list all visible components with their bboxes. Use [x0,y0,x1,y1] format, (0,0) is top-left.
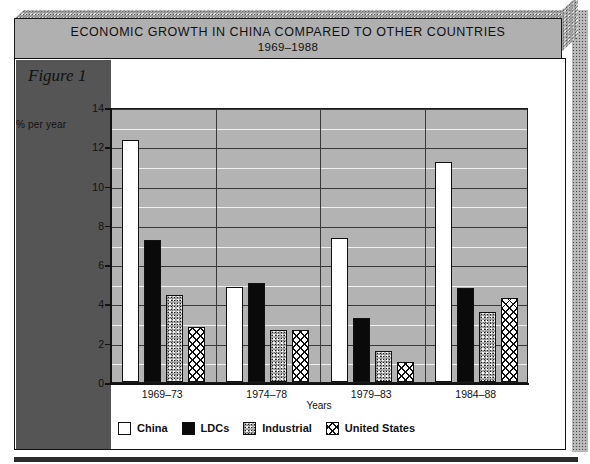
y-axis-tick-label: 0 [98,377,104,389]
y-axis-tick-label: 8 [98,220,104,232]
x-axis-title: Years [110,400,528,411]
gridline-major [111,188,527,189]
legend-item-ldcs: LDCs [182,422,230,435]
legend-swatch-icon [326,422,339,435]
bar-china [435,162,452,382]
legend-label: China [137,422,168,434]
bar-ldcs [248,283,265,382]
bar-ldcs [144,240,161,382]
bar-ldcs [457,288,474,382]
frame-bottom-shadow [14,457,578,462]
legend-label: United States [345,422,415,434]
y-axis-tick [105,187,110,189]
legend-swatch-icon [118,422,131,435]
y-axis-tick [105,108,110,110]
figure-container: ECONOMIC GROWTH IN CHINA COMPARED TO OTH… [0,0,590,464]
y-axis-tick-label: 12 [92,141,104,153]
y-axis-tick-label: 10 [92,181,104,193]
y-axis-tick-label: 4 [98,298,104,310]
gridline-minor [111,129,527,130]
x-axis-tick-label: 1979–83 [351,388,392,400]
title-banner: ECONOMIC GROWTH IN CHINA COMPARED TO OTH… [14,10,578,60]
legend-item-china: China [118,422,168,435]
bar-industrial [375,351,392,382]
bar-united-states [501,298,518,382]
y-axis-tick [105,344,110,346]
y-axis-tick [105,226,110,228]
x-axis-tick-label: 1984–88 [455,388,496,400]
gridline-major [111,266,527,267]
frame-right-texture [572,10,588,452]
chart-title-line-1: ECONOMIC GROWTH IN CHINA COMPARED TO OTH… [71,25,506,39]
bar-industrial [270,330,287,382]
plot-area [110,108,528,383]
x-axis-line [110,383,529,385]
group-separator [320,109,321,382]
bar-china [226,287,243,382]
y-axis-title: % per year [16,119,66,130]
bar-united-states [292,330,309,382]
chart-title-line-2: 1969–1988 [258,41,318,53]
x-axis-tick-label: 1969–73 [142,388,183,400]
banner-right-bevel [562,0,578,51]
y-axis-tick [105,147,110,149]
y-axis-tick [105,304,110,306]
chart-legend: ChinaLDCsIndustrialUnited States [118,420,429,436]
legend-swatch-icon [182,422,195,435]
y-axis-tick-label: 6 [98,259,104,271]
figure-label: Figure 1 [28,66,118,86]
y-axis-labels: 02468101214 [78,108,104,383]
legend-item-industrial: Industrial [243,422,312,435]
y-axis-tick [105,265,110,267]
gridline-minor [111,168,527,169]
x-axis-tick-label: 1974–78 [246,388,287,400]
group-separator [216,109,217,382]
banner-face: ECONOMIC GROWTH IN CHINA COMPARED TO OTH… [14,18,562,60]
y-axis-ticks [110,108,111,383]
bar-united-states [397,362,414,382]
legend-label: LDCs [201,422,230,434]
y-axis-tick-label: 2 [98,338,104,350]
gridline-major [111,109,527,110]
group-separator [425,109,426,382]
gridline-minor [111,247,527,248]
bar-china [331,238,348,382]
bar-industrial [166,295,183,382]
gridline-major [111,227,527,228]
y-axis-tick-label: 14 [92,102,104,114]
bar-ldcs [353,318,370,382]
bar-industrial [479,312,496,382]
gridline-major [111,148,527,149]
legend-label: Industrial [262,422,312,434]
bar-china [122,140,139,382]
gridline-minor [111,207,527,208]
gridline-minor [111,286,527,287]
legend-item-united-states: United States [326,422,415,435]
bar-united-states [188,327,205,382]
legend-swatch-icon [243,422,256,435]
